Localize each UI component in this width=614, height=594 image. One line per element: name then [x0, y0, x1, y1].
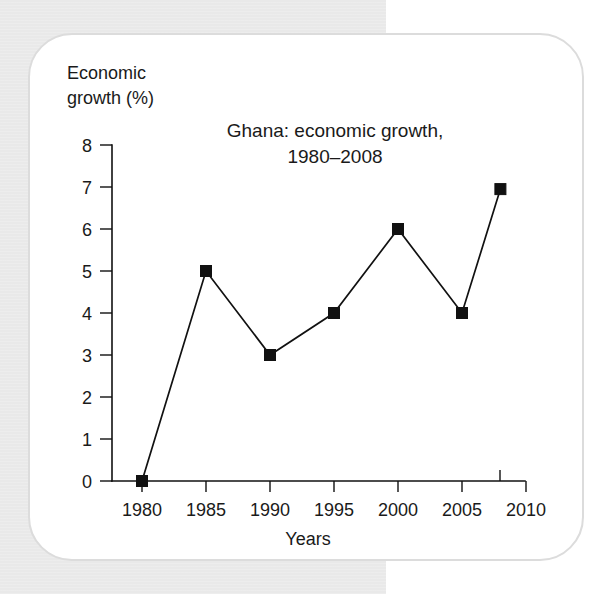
y-tick-label-1: 1	[82, 430, 92, 450]
series-markers	[137, 184, 506, 487]
y-tick-labels: 8 7 6 5 4 3 2 1 0	[82, 136, 92, 492]
data-point-marker	[329, 308, 340, 319]
x-tick-label-1985: 1985	[186, 500, 226, 520]
data-point-marker	[495, 184, 506, 195]
y-tick-label-3: 3	[82, 346, 92, 366]
y-tick-label-6: 6	[82, 220, 92, 240]
y-tick-label-4: 4	[82, 304, 92, 324]
y-tick-label-7: 7	[82, 178, 92, 198]
x-axis-group: 1980 1985 1990 1995 2000 2005 2010	[112, 470, 546, 520]
chart-area: Economic growth (%) Ghana: economic grow…	[30, 35, 582, 559]
y-tick-label-2: 2	[82, 388, 92, 408]
data-point-marker	[201, 266, 212, 277]
x-tick-label-2010: 2010	[506, 500, 546, 520]
y-tick-label-5: 5	[82, 262, 92, 282]
figure-page: Economic growth (%) Ghana: economic grow…	[0, 0, 614, 594]
data-series-group	[137, 184, 506, 487]
y-tick-label-8: 8	[82, 136, 92, 156]
y-ticks	[100, 145, 112, 481]
x-tick-label-1990: 1990	[250, 500, 290, 520]
x-tick-label-1980: 1980	[122, 500, 162, 520]
figure-card: Economic growth (%) Ghana: economic grow…	[28, 33, 584, 561]
x-axis-caption: Years	[30, 529, 586, 550]
data-point-marker	[457, 308, 468, 319]
x-tick-labels: 1980 1985 1990 1995 2000 2005 2010	[122, 500, 546, 520]
data-point-marker	[137, 476, 148, 487]
x-tick-label-2000: 2000	[378, 500, 418, 520]
data-point-marker	[265, 350, 276, 361]
y-tick-label-0: 0	[82, 472, 92, 492]
y-axis-group: 8 7 6 5 4 3 2 1 0	[82, 136, 112, 492]
data-point-marker	[393, 224, 404, 235]
x-tick-label-2005: 2005	[442, 500, 482, 520]
x-tick-label-1995: 1995	[314, 500, 354, 520]
line-chart-plot: 8 7 6 5 4 3 2 1 0	[30, 35, 586, 563]
series-line	[142, 189, 500, 481]
